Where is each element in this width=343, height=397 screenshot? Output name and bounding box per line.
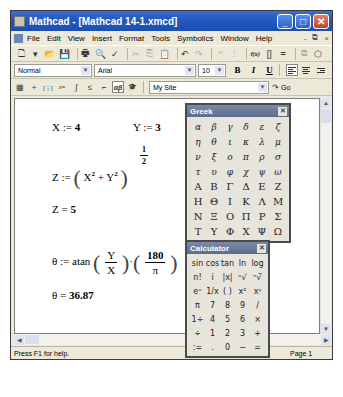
greek-lower-key[interactable]: ξ (206, 149, 222, 164)
close-button[interactable]: ✕ (313, 14, 329, 29)
greek-lower-key[interactable]: ζ (270, 119, 286, 134)
calculator-key[interactable]: xʸ (250, 284, 265, 298)
greek-lower-key[interactable]: β (206, 119, 222, 134)
greek-lower-key[interactable]: ν (190, 149, 206, 164)
calculator-key[interactable]: log (250, 256, 265, 270)
doc-minimize-button[interactable]: - (304, 34, 307, 43)
greek-lower-key[interactable]: χ (238, 164, 254, 179)
spell-check-icon[interactable]: ✓ (110, 48, 120, 60)
calculator-key[interactable]: ⁿ√ (235, 270, 250, 284)
horizontal-scrollbar[interactable]: ◀ ▶ (14, 334, 331, 345)
greek-lower-key[interactable]: δ (238, 119, 254, 134)
calculator-key[interactable]: × (250, 312, 265, 326)
greek-upper-key[interactable]: Υ (206, 224, 222, 239)
greek-lower-key[interactable]: ε (254, 119, 270, 134)
minimize-button[interactable]: _ (277, 14, 293, 29)
theta-definition[interactable]: θ := atan ( Y X )·( 180 π ) (52, 249, 178, 276)
calculator-key[interactable]: 3 (235, 326, 250, 340)
greek-lower-key[interactable]: α (190, 119, 206, 134)
greek-lower-key[interactable]: ρ (254, 149, 270, 164)
align-center-button[interactable] (301, 64, 313, 76)
greek-lower-key[interactable]: θ (206, 134, 222, 149)
calculator-key[interactable]: 4 (205, 312, 220, 326)
align-right-button[interactable] (316, 64, 328, 76)
calculator-key[interactable]: 8 (220, 298, 235, 312)
align-down-icon[interactable]: ⁞ (229, 48, 239, 60)
document-icon[interactable] (14, 34, 23, 43)
symbolic-toolbar-icon[interactable]: 🎓 (126, 81, 138, 93)
chevron-down-icon[interactable]: ▼ (258, 83, 267, 92)
scroll-thumb[interactable] (321, 109, 331, 123)
calculator-key[interactable]: ⁿ√̄ (250, 270, 265, 284)
calculator-key[interactable]: 0 (220, 340, 235, 354)
calculator-key[interactable]: − (235, 340, 250, 354)
greek-upper-key[interactable]: Ζ (270, 179, 286, 194)
menu-window[interactable]: Window (220, 34, 248, 43)
scroll-right-button[interactable]: ▶ (321, 335, 331, 345)
chevron-down-icon[interactable]: ▼ (215, 66, 224, 75)
greek-lower-key[interactable]: ψ (254, 164, 270, 179)
component-wizard-icon[interactable]: ⬡ (313, 48, 323, 60)
underline-button[interactable]: U (263, 65, 276, 75)
greek-upper-key[interactable]: Β (206, 179, 222, 194)
maximize-button[interactable]: □ (295, 14, 311, 29)
greek-upper-key[interactable]: Ω (270, 224, 286, 239)
calculator-key[interactable]: 1÷ (190, 312, 205, 326)
greek-upper-key[interactable]: Ν (190, 209, 206, 224)
greek-upper-key[interactable]: Χ (238, 224, 254, 239)
greek-lower-key[interactable]: τ (190, 164, 206, 179)
menu-format[interactable]: Format (119, 34, 144, 43)
open-folder-icon[interactable]: 📂 (44, 48, 55, 60)
calculator-key[interactable]: + (250, 326, 265, 340)
programming-toolbar-icon[interactable]: ⌐ (98, 81, 110, 93)
menu-edit[interactable]: Edit (47, 34, 61, 43)
calculator-key[interactable]: n! (190, 270, 205, 284)
save-icon[interactable]: 💾 (59, 48, 70, 60)
greek-upper-key[interactable]: Μ (270, 194, 286, 209)
calculator-key[interactable]: 5 (220, 312, 235, 326)
greek-upper-key[interactable]: Δ (238, 179, 254, 194)
greek-lower-key[interactable]: κ (238, 134, 254, 149)
greek-upper-key[interactable]: Κ (238, 194, 254, 209)
new-document-icon[interactable]: 🗋 (16, 48, 26, 60)
scroll-down-button[interactable]: ▼ (321, 324, 331, 334)
boolean-toolbar-icon[interactable]: ≤ (84, 81, 96, 93)
scroll-thumb[interactable] (25, 335, 39, 344)
greek-lower-key[interactable]: γ (222, 119, 238, 134)
evaluation-toolbar-icon[interactable]: x= (56, 81, 68, 93)
greek-upper-key[interactable]: Η (190, 194, 206, 209)
calculator-key[interactable]: . (205, 340, 220, 354)
calculator-key[interactable]: i (205, 270, 220, 284)
calculator-key[interactable]: |x| (220, 270, 235, 284)
calculator-key[interactable]: π (190, 298, 205, 312)
bold-button[interactable]: B (231, 65, 244, 75)
calculator-key[interactable]: x² (235, 284, 250, 298)
greek-upper-key[interactable]: Λ (254, 194, 270, 209)
greek-upper-key[interactable]: Ρ (254, 209, 270, 224)
close-icon[interactable]: ✕ (257, 244, 266, 253)
calculator-key[interactable]: 7 (205, 298, 220, 312)
scroll-left-button[interactable]: ◀ (14, 335, 24, 345)
greek-upper-key[interactable]: Ψ (254, 224, 270, 239)
undo-icon[interactable]: ↶ (180, 48, 190, 60)
calculate-icon[interactable]: = (278, 48, 288, 60)
calculator-key[interactable]: = (250, 340, 265, 354)
greek-upper-key[interactable]: Ε (254, 179, 270, 194)
chevron-down-icon[interactable]: ▼ (185, 66, 194, 75)
chevron-down-icon[interactable]: ▼ (81, 66, 90, 75)
calculator-palette-titlebar[interactable]: Calculator ✕ (187, 242, 268, 254)
dropdown-arrow-icon[interactable]: ▾ (30, 48, 40, 60)
greek-lower-key[interactable]: φ (222, 164, 238, 179)
z-definition[interactable]: Z := ( X2 + Y2 ) (52, 165, 128, 191)
align-across-icon[interactable]: ⁼ (215, 48, 225, 60)
vertical-scrollbar[interactable]: ▲ ▼ (320, 98, 331, 334)
greek-lower-key[interactable]: ι (222, 134, 238, 149)
align-left-button[interactable] (286, 64, 298, 76)
greek-upper-key[interactable]: Φ (222, 224, 238, 239)
greek-lower-key[interactable]: υ (206, 164, 222, 179)
greek-upper-key[interactable]: Ο (222, 209, 238, 224)
menu-tools[interactable]: Tools (151, 34, 170, 43)
resource-center-select[interactable]: My Site ▼ (149, 81, 269, 94)
paste-icon[interactable]: 📋 (159, 48, 170, 60)
calculator-key[interactable]: 9 (235, 298, 250, 312)
